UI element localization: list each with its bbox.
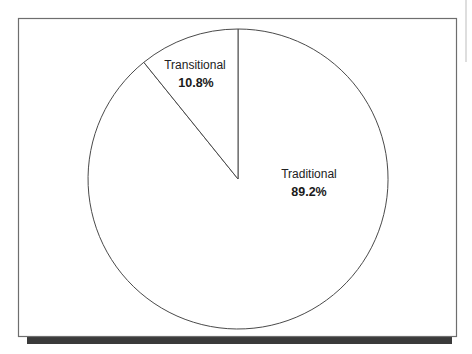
- pie: [88, 29, 388, 329]
- slice-label-traditional: Traditional: [281, 167, 337, 181]
- slice-value-transitional: 10.8%: [178, 76, 213, 90]
- slice-value-traditional: 89.2%: [291, 185, 326, 199]
- frame-shadow-bar: [27, 337, 452, 344]
- pie-chart: Transitional 10.8% Traditional 89.2%: [0, 0, 472, 354]
- slice-label-transitional: Transitional: [164, 58, 226, 72]
